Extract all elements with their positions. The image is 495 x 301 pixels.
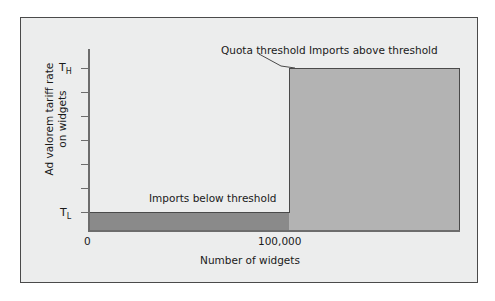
y-tick-tl <box>81 212 89 213</box>
y-tick-3 <box>81 140 89 141</box>
annotation-imports-below-threshold: Imports below threshold <box>149 192 277 204</box>
y-tick-label-low: TL <box>60 206 71 221</box>
y-axis-title: Ad valorem tariff rate on widgets <box>43 39 69 199</box>
y-tick-1 <box>81 92 89 93</box>
y-axis-title-line2: on widgets <box>56 39 69 199</box>
chart-panel: TH TL 0 100,000 Number of widgets Ad val… <box>20 17 478 283</box>
x-tick-label-threshold: 100,000 <box>258 235 301 247</box>
y-tick-th <box>81 68 89 69</box>
x-axis <box>88 230 460 232</box>
step-segment-threshold-jump <box>289 68 290 213</box>
region-imports-below-threshold <box>89 213 289 230</box>
annotation-imports-above-threshold: Imports above threshold <box>309 44 438 56</box>
x-axis-title: Number of widgets <box>21 254 479 266</box>
y-tick-4 <box>81 164 89 165</box>
region-imports-above-threshold <box>289 69 459 230</box>
figure: TH TL 0 100,000 Number of widgets Ad val… <box>0 0 495 301</box>
y-axis-title-line1: Ad valorem tariff rate <box>43 39 56 199</box>
y-tick-label-low-subscript: L <box>67 212 71 221</box>
step-segment-right-cap <box>459 68 460 230</box>
y-tick-5 <box>81 188 89 189</box>
y-tick-2 <box>81 116 89 117</box>
x-tick-label-zero: 0 <box>84 235 91 247</box>
step-segment-low-rate <box>89 212 290 213</box>
plot-area: TH TL 0 100,000 Number of widgets Ad val… <box>21 18 479 284</box>
y-tick-label-low-base: T <box>60 206 67 219</box>
step-segment-high-rate <box>289 68 460 69</box>
quota-threshold-leader-line <box>259 54 295 72</box>
